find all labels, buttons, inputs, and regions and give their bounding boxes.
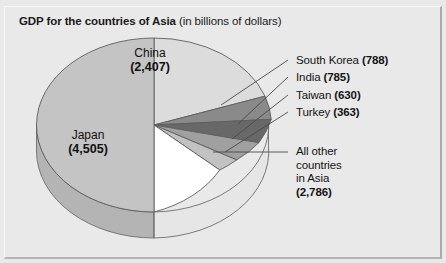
- callout-all-other-countries: All other countries in Asia (2,786): [296, 145, 342, 199]
- callout-south-korea-value: (788): [362, 54, 388, 66]
- callout-all-other-line1: All other: [296, 145, 342, 159]
- callout-turkey-value: (363): [333, 106, 359, 118]
- callout-south-korea-label: South Korea: [296, 54, 362, 66]
- callout-all-other-line2: countries: [296, 159, 342, 173]
- callout-all-other-line3: in Asia: [296, 172, 342, 186]
- callout-turkey-label: Turkey: [296, 106, 333, 118]
- figure-frame: GDP for the countries of Asia (in billio…: [0, 0, 446, 263]
- pie-label-japan-name: Japan: [44, 128, 132, 142]
- pie-label-japan: Japan (4,505): [44, 128, 132, 156]
- callout-south-korea: South Korea (788): [296, 54, 388, 68]
- callout-all-other-value: (2,786): [296, 186, 342, 200]
- callout-india: India (785): [296, 71, 350, 85]
- callout-turkey: Turkey (363): [296, 106, 360, 120]
- pie-label-china-name: China: [106, 46, 194, 60]
- callout-taiwan-label: Taiwan: [296, 89, 334, 101]
- callout-taiwan: Taiwan (630): [296, 89, 361, 103]
- callout-taiwan-value: (630): [334, 89, 360, 101]
- callout-india-value: (785): [324, 71, 350, 83]
- callout-india-label: India: [296, 71, 324, 83]
- pie-label-japan-value: (4,505): [44, 142, 132, 156]
- pie-label-china-value: (2,407): [106, 60, 194, 74]
- pie-label-china: China (2,407): [106, 46, 194, 74]
